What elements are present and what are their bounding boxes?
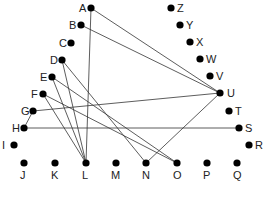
node-dot [77,21,84,28]
node-M: M [111,159,120,181]
node-U: U [216,87,235,99]
node-label: N [142,169,150,181]
node-label: P [203,169,210,181]
node-dot [186,38,193,45]
node-A: A [79,2,95,14]
node-C: C [59,37,75,49]
edge-G-U [33,93,220,111]
node-L: L [82,159,90,181]
node-label: G [21,105,30,117]
node-dot [206,72,213,79]
node-dot [176,21,183,28]
node-label: E [40,71,47,83]
node-label: H [12,122,20,134]
node-F: F [31,88,47,100]
node-label: J [20,169,26,181]
node-J: J [20,159,28,181]
node-dot [51,159,58,166]
node-label: C [59,37,67,49]
node-label: Y [186,19,194,31]
node-label: W [206,53,217,65]
node-G: G [21,105,37,117]
node-dot [87,4,94,11]
node-Z: Z [167,2,184,14]
node-O: O [173,159,182,181]
node-Y: Y [176,19,194,31]
node-label: B [69,19,76,31]
node-dot [39,90,46,97]
node-label: A [79,2,87,14]
node-label: Q [233,169,242,181]
node-B: B [69,19,85,31]
node-label: S [245,122,252,134]
node-label: V [216,70,224,82]
node-dot [225,107,232,114]
node-dot [58,56,65,63]
edges [24,8,239,163]
node-K: K [51,159,59,181]
node-dot [203,159,210,166]
node-R: R [245,139,263,151]
node-dot [167,4,174,11]
node-dot [142,159,149,166]
node-dot [233,159,240,166]
node-label: U [227,87,235,99]
node-dot [216,89,223,96]
node-P: P [203,159,211,181]
nodes: ABCDEFGHIJKLMNOPQRSTUVWXYZ [2,2,263,181]
node-dot [235,124,242,131]
graph-diagram: ABCDEFGHIJKLMNOPQRSTUVWXYZ [0,0,268,201]
node-T: T [225,105,242,117]
node-label: F [31,88,38,100]
node-label: D [50,54,58,66]
node-dot [82,159,89,166]
node-label: Z [177,2,184,14]
node-dot [20,159,27,166]
node-dot [29,107,36,114]
edge-E-O [52,77,177,163]
node-dot [196,55,203,62]
node-label: O [173,169,182,181]
node-label: M [111,169,120,181]
node-dot [20,124,27,131]
node-dot [112,159,119,166]
node-label: I [2,139,5,151]
node-label: R [255,139,263,151]
node-H: H [12,122,28,134]
node-dot [48,73,55,80]
node-label: L [82,169,88,181]
node-dot [67,39,74,46]
node-I: I [2,139,18,151]
node-S: S [235,122,252,134]
node-label: K [51,169,59,181]
edge-A-U [91,8,220,93]
edge-A-L [86,8,91,163]
node-N: N [142,159,150,181]
node-X: X [186,36,204,48]
node-dot [10,141,17,148]
node-Q: Q [233,159,242,181]
edge-D-N [62,60,146,163]
node-W: W [196,53,217,65]
node-label: T [235,105,242,117]
node-V: V [206,70,224,82]
edge-F-L [43,94,86,163]
node-dot [245,141,252,148]
node-dot [173,159,180,166]
node-label: X [196,36,204,48]
